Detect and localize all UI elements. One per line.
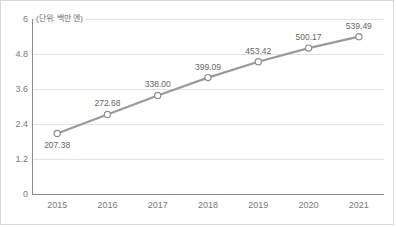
data-point-marker [305, 45, 311, 51]
series-line-chart [1, 1, 395, 226]
chart-unit-label: (단위: 백만 엔) [36, 12, 85, 23]
data-point-marker [104, 111, 110, 117]
data-point-label: 539.49 [346, 21, 372, 31]
series-line [57, 37, 359, 134]
data-point-label: 399.09 [195, 62, 221, 72]
data-point-label: 338.00 [145, 79, 171, 89]
data-point-label: 272.68 [94, 98, 120, 108]
data-point-marker [356, 34, 362, 40]
data-point-marker [54, 130, 60, 136]
data-point-marker [155, 92, 161, 98]
data-point-label: 500.17 [296, 32, 322, 42]
chart-container: (단위: 백만 엔) 01.22.43.64.86 20152016201720… [0, 0, 394, 225]
data-point-marker [205, 75, 211, 81]
data-point-label: 207.38 [44, 140, 70, 150]
series-markers [54, 34, 362, 137]
data-point-label: 453.42 [245, 46, 271, 56]
data-point-marker [255, 59, 261, 65]
